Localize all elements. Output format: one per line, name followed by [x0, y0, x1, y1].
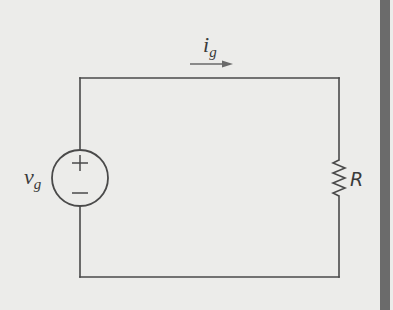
resistor-icon [333, 160, 345, 196]
source-subscript: g [34, 176, 42, 192]
plus-icon [72, 155, 88, 171]
resistor-label: R [350, 170, 363, 189]
current-subscript: g [209, 44, 217, 60]
voltage-source [52, 150, 108, 206]
circuit-diagram: ig vg R [0, 0, 393, 310]
page-edge-bar [380, 0, 390, 310]
circuit-schematic [0, 0, 393, 310]
source-symbol: v [24, 164, 34, 189]
current-label: ig [203, 34, 217, 60]
source-label: vg [24, 166, 41, 192]
current-arrow-icon [190, 61, 233, 68]
